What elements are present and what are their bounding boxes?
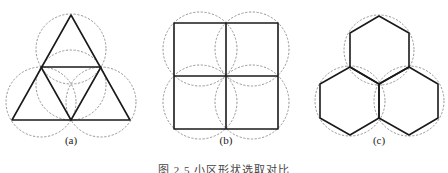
panel-c-label: (c) [359,134,399,146]
panel-c-hexagon-cells [315,15,444,136]
figure-caption: 图 2.5 小区形状选取对比 [0,161,448,173]
panel-b-label: (b) [206,134,246,146]
panel-a-triangle-cells [6,14,136,137]
panel-b-square-cells [163,12,289,139]
panel-a-label: (a) [51,134,91,146]
cell-shape-comparison-figure [0,0,448,173]
